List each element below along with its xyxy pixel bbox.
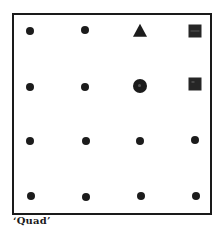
- square-icon: [189, 78, 202, 91]
- dot-icon: [26, 83, 34, 91]
- dot-icon: [82, 137, 90, 145]
- dot-icon: [26, 27, 34, 35]
- dot-icon: [26, 137, 34, 145]
- dot-icon: [137, 192, 145, 200]
- triangle-icon: [133, 24, 147, 37]
- figure-caption: ‘Quad’: [13, 215, 51, 226]
- dot-icon: [82, 193, 90, 201]
- diagram-frame: [12, 13, 212, 215]
- dot-icon: [81, 26, 89, 34]
- dot-icon: [27, 192, 35, 200]
- dot-icon: [136, 137, 144, 145]
- dot-icon: [81, 83, 89, 91]
- circle-icon: [133, 79, 147, 93]
- dot-icon: [192, 192, 200, 200]
- square-icon: [189, 25, 202, 38]
- dot-icon: [191, 136, 199, 144]
